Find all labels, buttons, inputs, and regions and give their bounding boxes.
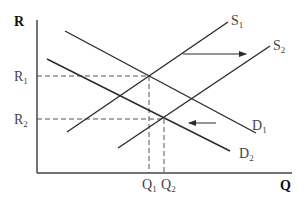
price-label-r2: R2 (14, 112, 28, 129)
supply-demand-diagram: R Q S1S2D1D2 R1R2Q1Q2 (0, 0, 304, 198)
equilibrium-guides (37, 76, 164, 173)
shift-arrows (183, 54, 246, 123)
quantity-label-q2: Q2 (161, 177, 176, 194)
curve-label-d1: D1 (252, 118, 267, 135)
quantity-label-q1: Q1 (142, 177, 157, 194)
y-axis-label: R (14, 14, 25, 29)
curve-label-s2: S2 (273, 38, 285, 55)
x-axis-label: Q (280, 178, 291, 193)
tick-labels: R1R2Q1Q2 (14, 69, 176, 194)
supply-curve-s1 (67, 22, 228, 132)
price-label-r1: R1 (14, 69, 28, 86)
curves: S1S2D1D2 (47, 13, 285, 163)
axes: R Q (14, 14, 292, 193)
curve-label-s1: S1 (231, 13, 243, 30)
curve-label-d2: D2 (239, 146, 254, 163)
